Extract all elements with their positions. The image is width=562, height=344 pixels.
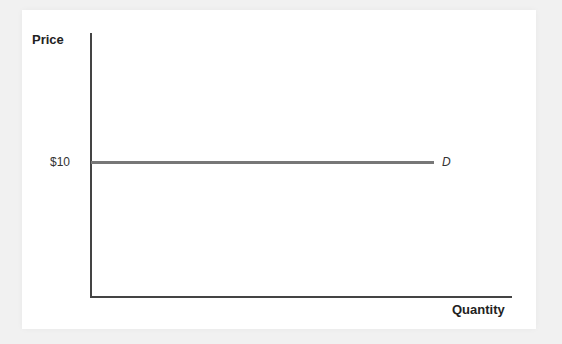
price-tick-label: $10 [50, 155, 70, 169]
x-axis [90, 296, 512, 298]
y-axis [90, 33, 92, 297]
chart-panel [22, 10, 536, 329]
y-axis-label: Price [32, 32, 64, 47]
demand-curve-label: D [442, 155, 451, 169]
demand-curve-line [91, 161, 434, 164]
x-axis-label: Quantity [452, 302, 505, 317]
